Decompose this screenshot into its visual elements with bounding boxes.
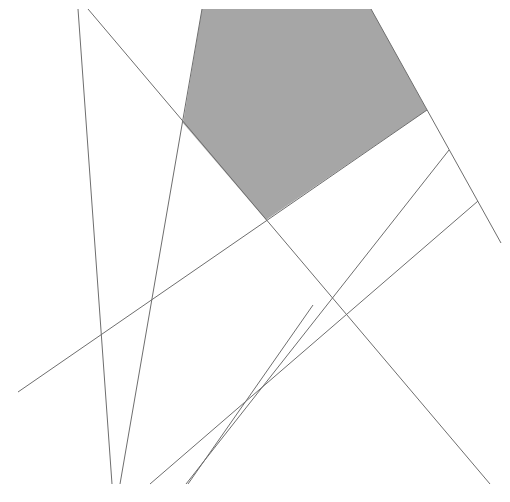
geometry-diagram (0, 0, 510, 502)
